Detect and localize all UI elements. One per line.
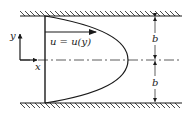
top-wall xyxy=(20,11,182,16)
parabolic-velocity-profile xyxy=(45,16,128,103)
dimension-indicator: b b xyxy=(152,17,158,102)
top-wall-hatching xyxy=(20,11,180,16)
bottom-wall xyxy=(20,103,182,108)
flow-diagram: u = u(y) y x b b xyxy=(0,0,191,116)
coordinate-axes: y x xyxy=(9,30,41,72)
half-gap-label-bottom: b xyxy=(152,77,158,88)
half-gap-label-top: b xyxy=(152,33,158,44)
y-axis-label: y xyxy=(9,30,16,41)
x-axis-label: x xyxy=(35,61,41,72)
bottom-wall-hatching xyxy=(20,103,180,108)
velocity-label: u = u(y) xyxy=(50,36,91,47)
